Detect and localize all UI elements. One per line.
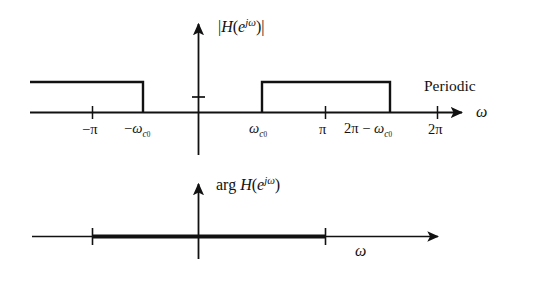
two-pi-minus-lead: 2π − [344,120,374,136]
xtick-label-pi: π [319,122,326,137]
magnitude-y-axis-label: |H(ejω)| [218,17,264,35]
xtick-label-neg-pi: −π [82,122,98,137]
xtick-label-neg-pi-text: −π [82,121,98,137]
xtick-label-two-pi: 2π [428,122,443,137]
magnitude-passband-left [30,82,143,112]
xtick-label-pi-text: π [319,121,326,137]
two-pi-minus-omega: ω [374,120,384,136]
omega-c0-omega: ω [249,120,259,136]
figure-canvas [0,0,536,287]
magnitude-x-axis-label: ω [476,104,487,120]
two-pi-minus-subsub: 0 [389,131,393,139]
magnitude-label-func: H [221,18,233,35]
phase-label-paren-close: ) [275,176,280,193]
periodic-annotation: Periodic [424,78,476,94]
magnitude-label-exponent: jω [245,16,256,28]
frequency-response-figure: |H(ejω)| Periodic ω −π −ωc0 ωc0 π 2π − ω… [0,0,536,287]
magnitude-label-bar-close: | [261,18,264,35]
neg-omega-c0-subsub: 0 [147,131,151,139]
neg-omega-c0-omega: ω [132,120,142,136]
phase-label-exponent: jω [264,174,275,186]
phase-label-arg: arg [216,176,240,193]
phase-x-axis-label: ω [355,243,366,259]
xtick-label-omega-c0: ωc0 [249,121,267,139]
phase-label-func: H [240,176,252,193]
omega-c0-subsub: 0 [264,131,268,139]
neg-omega-c0-minus: − [124,120,132,136]
xtick-label-neg-omega-c0: −ωc0 [124,121,150,139]
phase-y-axis-label: arg H(ejω) [216,175,280,193]
phase-panel [32,184,438,259]
xtick-label-two-pi-minus-omega-c0: 2π − ωc0 [344,121,392,139]
xtick-label-two-pi-text: 2π [428,121,443,137]
